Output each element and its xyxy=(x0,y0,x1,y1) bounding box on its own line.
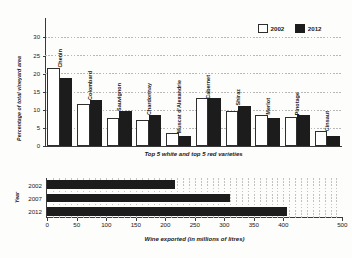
gridline xyxy=(319,178,320,218)
y-category-label: 2002 xyxy=(20,181,42,188)
bar-group-label-wrap: Colombard xyxy=(87,71,93,100)
y-category-label: 2012 xyxy=(20,208,42,215)
bar-group-label: Chardonnay xyxy=(146,83,152,115)
bar-2002 xyxy=(136,120,149,146)
vineyard-area-bar-chart: Percentage of total vineyard area 2002 2… xyxy=(0,10,352,158)
bar-2002 xyxy=(47,180,175,189)
x-tick-mark xyxy=(195,218,196,221)
bar-group-label-wrap: Muscat d'Alexandrie xyxy=(176,80,182,133)
y-tick-label: 15 xyxy=(20,89,40,95)
bar-2002 xyxy=(226,111,239,146)
bar-2012 xyxy=(179,136,192,145)
bar-2012 xyxy=(90,100,103,146)
x-tick-label: 150 xyxy=(131,221,141,228)
gridline xyxy=(307,178,308,218)
top-chart-x-axis-title: Top 5 white and top 5 red varieties xyxy=(45,151,342,157)
bar-2012 xyxy=(60,78,73,145)
x-tick-label: 500 xyxy=(337,221,347,228)
bar-group: Colombard xyxy=(75,19,105,146)
bar-2002 xyxy=(77,104,90,146)
bar-group-label-wrap: Chardonnay xyxy=(146,83,152,115)
bar-group: Cabernet xyxy=(194,19,224,146)
x-tick-mark xyxy=(254,218,255,221)
gridline xyxy=(336,178,337,218)
y-tick-label: 10 xyxy=(20,107,40,113)
gridline xyxy=(301,178,302,218)
bar-group-label: Sauvignon xyxy=(116,83,122,111)
bar-2002 xyxy=(315,131,328,146)
x-tick-label: 50 xyxy=(73,221,80,228)
bar-group-label-wrap: Sauvignon xyxy=(116,83,122,111)
gridline xyxy=(295,178,296,218)
x-tick-mark xyxy=(342,218,343,221)
x-tick-label: 250 xyxy=(190,221,200,228)
gridline xyxy=(331,178,332,218)
bar-group-label-wrap: Chenin xyxy=(57,49,63,68)
x-tick-mark xyxy=(165,218,166,221)
bar-group-label: Cabernet xyxy=(205,75,211,99)
bar-group-label: Chenin xyxy=(57,49,63,68)
bar-2012 xyxy=(208,98,221,145)
bar-group-label-wrap: Merlot xyxy=(265,98,271,114)
bar-group: Sauvignon xyxy=(104,19,134,146)
bar-group-label-wrap: Shiraz xyxy=(235,89,241,105)
x-tick-label: 200 xyxy=(160,221,170,228)
bar-group-label: Merlot xyxy=(265,98,271,114)
bar-2012 xyxy=(47,207,287,216)
bar-2012 xyxy=(119,111,132,146)
bar-group-label-wrap: Pinotage xyxy=(294,92,300,115)
y-tick-mark xyxy=(43,146,46,147)
top-chart-y-axis-title: Percentage of total vineyard area xyxy=(16,42,22,154)
chart-page: Percentage of total vineyard area 2002 2… xyxy=(0,0,352,258)
x-tick-mark xyxy=(47,218,48,221)
x-tick-label: 400 xyxy=(278,221,288,228)
gridline xyxy=(325,178,326,218)
x-tick-mark xyxy=(136,218,137,221)
bar-group: Chardonnay xyxy=(134,19,164,146)
bar-2002 xyxy=(196,98,209,145)
x-tick-label: 100 xyxy=(101,221,111,228)
x-tick-mark xyxy=(283,218,284,221)
y-category-label: 2007 xyxy=(20,195,42,202)
bar-2002 xyxy=(47,68,60,146)
bar-group-label: Muscat d'Alexandrie xyxy=(176,80,182,133)
gridline xyxy=(289,178,290,218)
gridline xyxy=(313,178,314,218)
bar-group-label-wrap: Cinsaut xyxy=(324,111,330,131)
x-tick-mark xyxy=(224,218,225,221)
bar-group: Muscat d'Alexandrie xyxy=(164,19,194,146)
top-chart-bar-groups: CheninColombardSauvignonChardonnayMuscat… xyxy=(45,19,342,146)
bar-2012 xyxy=(149,115,162,146)
x-tick-mark xyxy=(106,218,107,221)
bar-2002 xyxy=(107,118,120,145)
bar-group: Cinsaut xyxy=(312,19,342,146)
bottom-chart-plot-area: 050100150200250300350400500 xyxy=(46,178,343,218)
x-tick-mark xyxy=(77,218,78,221)
bar-group-label: Shiraz xyxy=(235,89,241,105)
y-tick-label: 0 xyxy=(20,143,40,149)
x-tick-label: 350 xyxy=(249,221,259,228)
bar-2002 xyxy=(285,117,298,146)
top-chart-plot-area: 051015202530 CheninColombardSauvignonCha… xyxy=(45,18,342,147)
bar-2012 xyxy=(327,136,340,145)
bar-2002 xyxy=(166,133,179,146)
x-tick-label: 300 xyxy=(219,221,229,228)
y-tick-label: 30 xyxy=(20,34,40,40)
y-tick-label: 20 xyxy=(20,71,40,77)
bottom-chart-x-axis-title: Wine exported (in millions of litres) xyxy=(46,236,343,242)
y-tick-label: 5 xyxy=(20,125,40,131)
bar-group-label: Cinsaut xyxy=(324,111,330,131)
bar-2012 xyxy=(268,118,281,145)
x-tick-label: 0 xyxy=(46,221,49,228)
bar-2007 xyxy=(47,194,230,203)
top-chart-x-axis-line xyxy=(45,146,342,147)
wine-export-bar-chart: Year 200220072012 0501001502002503003504… xyxy=(0,178,352,254)
bar-2002 xyxy=(255,115,268,146)
bar-group-label: Colombard xyxy=(87,71,93,100)
bar-group: Chenin xyxy=(45,19,75,146)
bar-group: Merlot xyxy=(253,19,283,146)
bar-group-label-wrap: Cabernet xyxy=(205,75,211,99)
y-tick-label: 25 xyxy=(20,53,40,59)
bar-group: Pinotage xyxy=(283,19,313,146)
bar-group: Shiraz xyxy=(223,19,253,146)
